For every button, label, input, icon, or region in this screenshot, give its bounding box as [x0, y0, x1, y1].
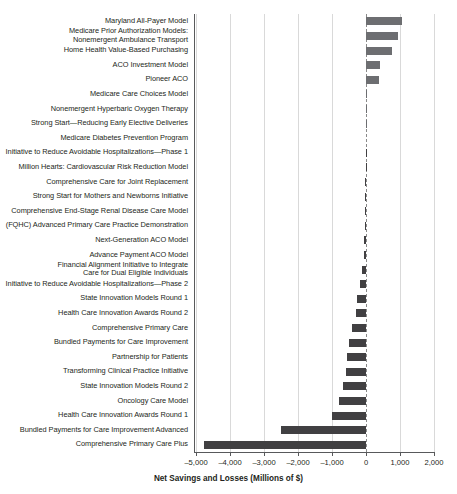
- bar: [366, 163, 367, 171]
- category-label: ACO Investment Model: [0, 61, 188, 70]
- bar: [360, 280, 366, 288]
- category-label: Health Care Innovation Awards Round 1: [0, 411, 188, 420]
- category-label: Medicare Care Choices Model: [0, 90, 188, 99]
- category-label: Health Care Innovation Awards Round 2: [0, 309, 188, 318]
- plot-area: [195, 14, 434, 452]
- category-label: Strong Start for Mothers and Newborns In…: [0, 192, 188, 201]
- bar: [365, 222, 366, 230]
- category-label: Oncology Care Model: [0, 397, 188, 406]
- gridline: [332, 14, 333, 452]
- gridline: [264, 14, 265, 452]
- x-axis-title: Net Savings and Losses (Millions of $): [0, 474, 457, 483]
- category-label: Medicare Diabetes Prevention Program: [0, 134, 188, 143]
- category-label: Comprehensive Primary Care: [0, 324, 188, 333]
- bar: [346, 368, 366, 376]
- tick-mark: [230, 452, 231, 456]
- category-label: Comprehensive Care for Joint Replacement: [0, 178, 188, 187]
- category-label: Nonemergent Hyperbaric Oxygen Therapy: [0, 105, 188, 114]
- bar: [364, 251, 366, 259]
- bar: [332, 412, 366, 420]
- x-axis-ticks: –5,000–4,000–3,000–2,000–1,00001,0002,00…: [0, 452, 457, 472]
- tick-mark: [264, 452, 265, 456]
- category-label: Transforming Clinical Practice Initiativ…: [0, 367, 188, 376]
- tick-mark: [366, 452, 367, 456]
- category-label: Initiative to Reduce Avoidable Hospitali…: [0, 148, 188, 157]
- bar: [366, 149, 367, 157]
- bar: [365, 207, 366, 215]
- bar: [366, 120, 367, 128]
- category-label: Comprehensive Primary Care Plus: [0, 440, 188, 449]
- category-label: State Innovation Models Round 2: [0, 382, 188, 391]
- tick-label: 1,000: [390, 458, 409, 467]
- category-label: Comprehensive End-Stage Renal Disease Ca…: [0, 207, 188, 216]
- bar: [366, 76, 379, 84]
- bar: [343, 382, 366, 390]
- tick-mark: [196, 452, 197, 456]
- bar: [366, 90, 367, 98]
- bar: [366, 32, 398, 40]
- bar: [281, 426, 366, 434]
- category-label: Partnership for Patients: [0, 353, 188, 362]
- gridline: [298, 14, 299, 452]
- tick-label: –2,000: [286, 458, 309, 467]
- category-label: Home Health Value-Based Purchasing: [0, 46, 188, 55]
- tick-mark: [332, 452, 333, 456]
- bar: [362, 266, 366, 274]
- tick-mark: [400, 452, 401, 456]
- tick-mark: [298, 452, 299, 456]
- category-label: Maryland All-Payer Model: [0, 17, 188, 26]
- category-label: Financial Alignment Initiative to Integr…: [0, 261, 188, 278]
- bar: [366, 17, 402, 25]
- tick-label: –5,000: [184, 458, 207, 467]
- category-label: Initiative to Reduce Avoidable Hospitali…: [0, 280, 188, 289]
- category-label-column: Maryland All-Payer ModelMedicare Prior A…: [0, 0, 195, 494]
- category-label: State Innovation Models Round 1: [0, 294, 188, 303]
- category-label: Pioneer ACO: [0, 75, 188, 84]
- category-label: Next-Generation ACO Model: [0, 236, 188, 245]
- bar: [366, 61, 380, 69]
- gridline: [400, 14, 401, 452]
- tick-label: 2,000: [424, 458, 443, 467]
- category-label: Medicare Prior Authorization Models: Non…: [0, 27, 188, 44]
- category-label: Strong Start—Reducing Early Elective Del…: [0, 119, 188, 128]
- bar: [357, 295, 366, 303]
- bar: [365, 178, 366, 186]
- bar: [356, 309, 366, 317]
- gridline: [434, 14, 435, 452]
- bar: [366, 47, 392, 55]
- category-label: Advance Payment ACO Model: [0, 251, 188, 260]
- bar: [365, 193, 366, 201]
- bar: [339, 397, 366, 405]
- bar: [366, 105, 367, 113]
- bar: [347, 353, 366, 361]
- tick-label: –4,000: [218, 458, 241, 467]
- tick-mark: [434, 452, 435, 456]
- tick-label: –3,000: [252, 458, 275, 467]
- category-label: Million Hearts: Cardiovascular Risk Redu…: [0, 163, 188, 172]
- gridline: [230, 14, 231, 452]
- net-savings-losses-bar-chart: Maryland All-Payer ModelMedicare Prior A…: [0, 0, 457, 494]
- tick-label: 0: [364, 458, 368, 467]
- bar: [352, 324, 366, 332]
- bar: [364, 236, 366, 244]
- gridline: [196, 14, 197, 452]
- category-label: Bundled Payments for Care Improvement: [0, 338, 188, 347]
- category-label: Bundled Payments for Care Improvement Ad…: [0, 426, 188, 435]
- bar: [349, 339, 366, 347]
- category-label: (FQHC) Advanced Primary Care Practice De…: [0, 221, 188, 230]
- bar: [204, 441, 366, 449]
- tick-label: –1,000: [320, 458, 343, 467]
